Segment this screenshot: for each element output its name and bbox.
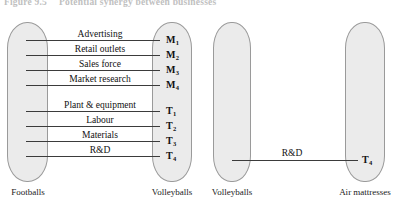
connector-t2 [26, 126, 160, 127]
node-label-m2: M2 [166, 50, 179, 61]
figure-canvas: Figure 9.5Potential synergy between busi… [0, 0, 397, 203]
figure-caption-text: Potential synergy between businesses [59, 0, 216, 7]
node-label-m4: M4 [166, 80, 179, 91]
node-label-m1: M1 [166, 35, 179, 46]
connector-t1 [26, 111, 160, 112]
figure-number: Figure 9.5 [4, 0, 47, 7]
connector-t3 [26, 141, 160, 142]
connector-m3 [26, 70, 160, 71]
link-label-t4: R&D [60, 145, 140, 155]
caption-footballs: Footballs [0, 187, 56, 197]
link-label-rd: R&D [262, 148, 322, 158]
link-label-t2: Labour [60, 115, 140, 125]
link-label-t1: Plant & equipment [56, 100, 144, 110]
caption-volleyballs-b: Volleyballs [201, 187, 263, 197]
caption-volleyballs-a: Volleyballs [141, 187, 203, 197]
link-label-t3: Materials [60, 130, 140, 140]
connector-t4 [26, 156, 160, 157]
link-label-m2: Retail outlets [60, 44, 140, 54]
node-label-t3: T3 [166, 136, 176, 147]
link-label-m3: Sales force [60, 59, 140, 69]
link-label-m1: Advertising [60, 29, 140, 39]
node-label-t2: T2 [166, 121, 176, 132]
node-label-m3: M3 [166, 65, 179, 76]
connector-m1 [26, 40, 160, 41]
node-label-t1: T1 [166, 106, 176, 117]
node-label-rd-t4: T4 [362, 155, 372, 166]
blob-volleyballs-b [213, 22, 251, 182]
caption-air-mattresses: Air mattresses [327, 187, 397, 197]
node-label-t4: T4 [166, 151, 176, 162]
blob-footballs [7, 22, 48, 182]
connector-m2 [26, 55, 160, 56]
connector-m4 [26, 85, 160, 86]
figure-title: Figure 9.5Potential synergy between busi… [4, 0, 216, 7]
connector-rd [232, 160, 358, 161]
link-label-m4: Market research [56, 74, 144, 84]
